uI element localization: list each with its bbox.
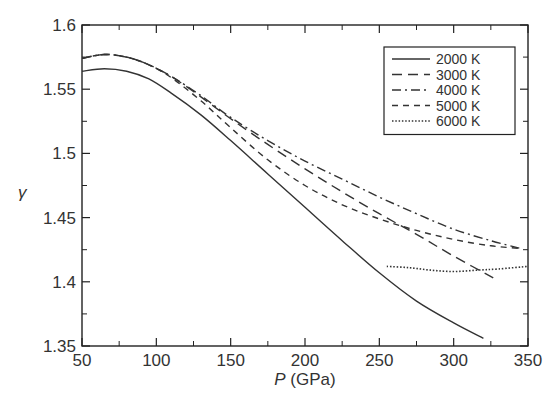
x-tick-label: 100 — [142, 351, 170, 370]
legend-label: 4000 K — [436, 82, 481, 98]
x-tick-label: 200 — [291, 351, 319, 370]
x-tick-label: 300 — [439, 351, 467, 370]
legend-label: 5000 K — [436, 98, 481, 114]
y-axis-label: γ — [18, 183, 28, 202]
x-axis-label-variable: P — [274, 370, 286, 389]
legend-label: 3000 K — [436, 67, 481, 83]
legend: 2000 K3000 K4000 K5000 K6000 K — [384, 47, 515, 135]
legend-label: 2000 K — [436, 51, 481, 67]
legend-label: 6000 K — [436, 113, 481, 129]
y-tick-label: 1.4 — [52, 273, 76, 292]
x-axis-label-unit: (GPa) — [286, 370, 336, 389]
y-tick-label: 1.45 — [43, 209, 76, 228]
x-tick-label: 150 — [216, 351, 244, 370]
x-tick-label: 250 — [365, 351, 393, 370]
x-tick-label: 350 — [514, 351, 542, 370]
x-axis-label: P (GPa) — [274, 370, 335, 389]
y-tick-label: 1.55 — [43, 80, 76, 99]
gamma-vs-pressure-chart: 1.351.41.451.51.551.6 501001502002503003… — [0, 0, 556, 417]
series-line-6000k — [387, 266, 528, 271]
x-tick-label: 50 — [73, 351, 92, 370]
y-tick-label: 1.6 — [52, 16, 76, 35]
y-tick-label: 1.35 — [43, 337, 76, 356]
y-tick-label: 1.5 — [52, 144, 76, 163]
